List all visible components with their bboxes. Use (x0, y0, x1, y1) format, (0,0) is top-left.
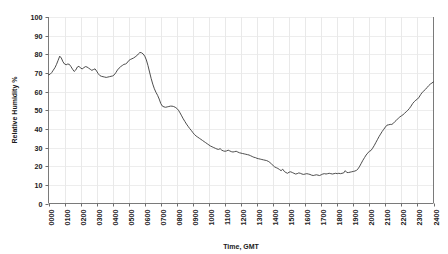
x-tick-label: 0700 (159, 210, 168, 226)
y-tick-label: 80 (35, 50, 43, 59)
x-tick-label: 1600 (303, 210, 312, 226)
x-tick-label: 2300 (415, 210, 424, 226)
x-tick-label: 0400 (111, 210, 120, 226)
x-tick-label: 1900 (351, 210, 360, 226)
x-tick-label: 1100 (223, 209, 232, 225)
x-tick-label: 2000 (367, 210, 376, 226)
x-axis-title: Time, GMT (223, 243, 259, 251)
y-tick-label: 0 (39, 200, 43, 209)
x-tick-label: 1500 (287, 210, 296, 226)
y-tick-label: 30 (35, 144, 43, 153)
x-tick-label: 0900 (191, 210, 200, 226)
y-tick-label: 20 (35, 162, 43, 171)
x-tick-label: 0300 (95, 210, 104, 226)
y-tick-label: 90 (35, 32, 43, 41)
y-tick-label: 10 (35, 181, 43, 190)
chart-svg: 0102030405060708090100 00000100020003000… (0, 0, 448, 254)
x-tick-label: 2400 (432, 210, 441, 226)
y-tick-label: 70 (35, 69, 43, 78)
x-tick-label: 0000 (47, 210, 56, 226)
x-tick-label: 0500 (127, 210, 136, 226)
y-tick-label: 100 (31, 13, 43, 22)
x-tick-label: 1000 (207, 210, 216, 226)
x-tick-label: 1800 (335, 210, 344, 226)
x-tick-label: 2200 (399, 210, 408, 226)
x-tick-label: 0100 (63, 210, 72, 226)
x-tick-label: 1300 (255, 210, 264, 226)
x-tick-label: 1400 (271, 210, 280, 226)
x-tick-label: 2100 (383, 210, 392, 226)
x-tick-label: 1700 (319, 210, 328, 226)
y-tick-label: 50 (35, 106, 43, 115)
relative-humidity-chart: 0102030405060708090100 00000100020003000… (0, 0, 448, 254)
x-tick-label: 0600 (143, 210, 152, 226)
y-axis-title: Relative Humidity % (11, 76, 19, 144)
x-tick-label: 0800 (175, 210, 184, 226)
y-tick-label: 40 (35, 125, 43, 134)
x-tick-label: 0200 (79, 210, 88, 226)
y-tick-label: 60 (35, 88, 43, 97)
x-tick-label: 1200 (239, 210, 248, 226)
